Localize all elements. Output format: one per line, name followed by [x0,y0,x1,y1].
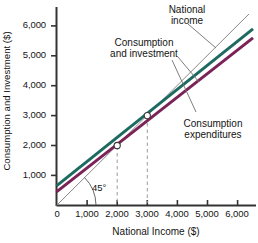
y-tick-label-6000: 6,000 [12,20,46,31]
y-tick-label-5000: 5,000 [12,50,46,61]
national-income-annotation-line2: income [156,15,218,26]
x-tick-label-6000: 6,000 [221,209,253,220]
x-tick-label-4000: 4,000 [161,209,193,220]
y-tick-label-4000: 4,000 [12,80,46,91]
x-tick-label-2000: 2,000 [101,209,133,220]
y-tick-label-2000: 2,000 [12,140,46,151]
y-axis-title: Consumption and Investment ($) [2,6,13,196]
x-tick-label-3000: 3,000 [131,209,163,220]
marker-consumption-and-investment-equilibrium [144,113,150,119]
national-income-chart: 6,000 5,000 4,000 3,000 2,000 1,000 0 1,… [0,0,258,243]
consumption-expenditures-annotation-line2: expenditures [170,129,256,140]
national-income-annotation-line1: National [156,4,218,15]
national-income-annotation: National income [156,4,218,26]
y-tick-label-3000: 3,000 [12,110,46,121]
consumption-expenditures-annotation: Consumption expenditures [170,118,256,140]
x-tick-label-5000: 5,000 [191,209,223,220]
leader-line-national-income [188,24,216,48]
y-tick-label-1000: 1,000 [12,170,46,181]
series-consumption-expenditures-line [57,38,254,192]
consumption-and-investment-annotation: Consumption and investment [98,37,190,59]
angle-annotation: 45° [92,183,106,194]
x-axis-title: National Income ($) [56,226,256,237]
x-tick-label-1000: 1,000 [71,209,103,220]
consumption-and-investment-annotation-line2: and investment [98,48,190,59]
consumption-expenditures-annotation-line1: Consumption [170,118,256,129]
x-tick-label-0: 0 [41,209,73,220]
leader-line-consumption-and-investment [178,57,199,82]
consumption-and-investment-annotation-line1: Consumption [98,37,190,48]
marker-consumption-equilibrium [114,142,120,148]
